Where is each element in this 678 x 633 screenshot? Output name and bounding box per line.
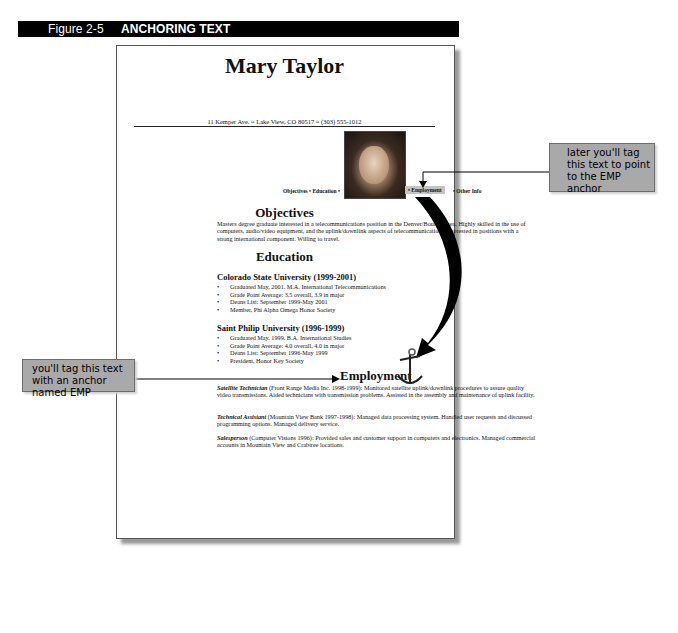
callout-anchor-note: you'll tag this text with an anchor name…	[22, 359, 135, 392]
link-curve-arrow	[405, 197, 462, 358]
callout-pointer-right	[423, 172, 549, 183]
annotation-overlay	[0, 0, 678, 633]
callout-link-note: later you'll tag this text to point to t…	[549, 143, 655, 192]
